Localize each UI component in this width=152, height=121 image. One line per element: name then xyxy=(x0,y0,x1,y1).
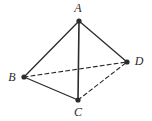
vertex-label-A: A xyxy=(74,2,81,14)
edge-AD xyxy=(79,21,127,62)
vertex-dot-D xyxy=(124,59,129,64)
vertex-label-C: C xyxy=(74,106,82,118)
vertices-group xyxy=(21,18,129,102)
edge-CD xyxy=(78,62,127,100)
edge-AC xyxy=(78,21,79,100)
vertex-dot-C xyxy=(75,97,80,102)
edges-group xyxy=(24,21,127,100)
vertex-dot-B xyxy=(21,74,26,79)
edge-BD xyxy=(24,62,127,77)
vertex-label-D: D xyxy=(135,55,144,67)
tetrahedron-figure: ABCD xyxy=(0,0,152,121)
vertex-label-B: B xyxy=(8,71,15,83)
edge-AB xyxy=(24,21,79,77)
edge-BC xyxy=(24,77,78,100)
tetrahedron-svg xyxy=(0,0,152,121)
vertex-dot-A xyxy=(76,18,81,23)
